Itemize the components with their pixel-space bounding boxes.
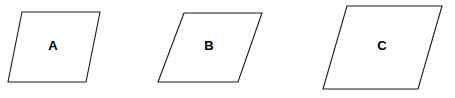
- parallelogram-b-label: B: [204, 38, 213, 53]
- parallelograms-figure: A B C: [0, 0, 455, 98]
- parallelogram-a-label: A: [48, 38, 58, 53]
- figure-canvas: A B C: [0, 0, 455, 98]
- parallelogram-c-label: C: [377, 38, 387, 53]
